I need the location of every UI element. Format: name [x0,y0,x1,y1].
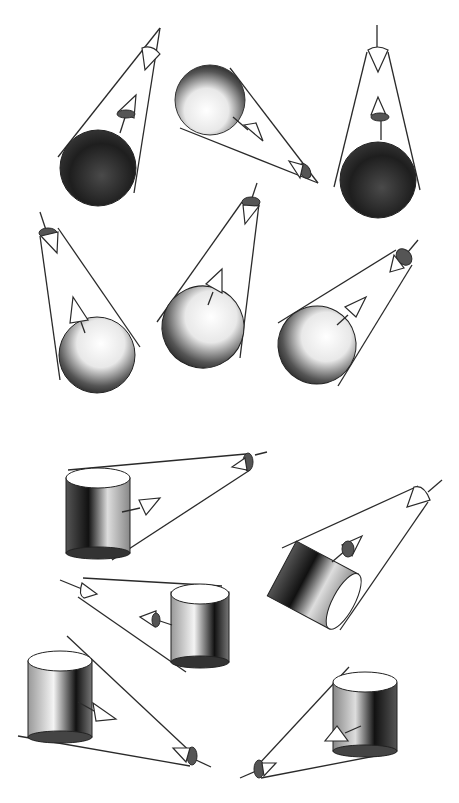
sphere-view-3 [334,25,420,218]
sphere-view-2 [175,65,318,183]
cylinder-view-1 [66,452,267,560]
sphere-view-6 [264,240,418,398]
sphere-view-5 [150,183,260,380]
sphere-view-4 [39,212,140,393]
cylinder-view-2 [267,480,442,634]
cylinder-view-5 [240,667,397,778]
illustration-canvas [0,0,459,803]
sphere-view-1 [58,28,160,206]
illustration-svg [0,0,459,803]
